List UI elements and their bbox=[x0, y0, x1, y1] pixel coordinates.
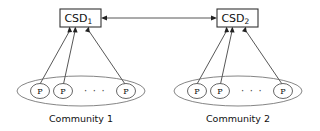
csd-2[interactable]: CSD 2 bbox=[217, 9, 258, 27]
community-1-uplinks bbox=[40, 27, 125, 85]
community-2-group: P P P · · · Community 2 bbox=[174, 27, 302, 125]
peer-label: P bbox=[60, 87, 66, 96]
community-2-peers: P P P · · · bbox=[188, 84, 293, 99]
peer-node[interactable]: P bbox=[117, 84, 136, 99]
link-arrowhead-left-icon bbox=[101, 16, 107, 21]
peer-label: P bbox=[123, 87, 129, 96]
community-1-caption: Community 1 bbox=[49, 113, 113, 124]
peer-node[interactable]: P bbox=[54, 84, 73, 99]
csd-1-subscript: 1 bbox=[88, 17, 93, 26]
peer-label: P bbox=[37, 87, 43, 96]
community-2-uplinks bbox=[197, 27, 282, 85]
peer-node[interactable]: P bbox=[274, 84, 293, 99]
community-2-caption: Community 2 bbox=[206, 113, 270, 124]
figure-canvas: P P P · · · Community 1 bbox=[0, 0, 320, 131]
peer-node[interactable]: P bbox=[31, 84, 50, 99]
peer-node[interactable]: P bbox=[188, 84, 207, 99]
csd-2-subscript: 2 bbox=[245, 17, 250, 26]
peer-node[interactable]: P bbox=[211, 84, 230, 99]
peer-ellipsis: · · · bbox=[84, 85, 106, 96]
peer-label: P bbox=[194, 87, 200, 96]
community-directory-diagram: P P P · · · Community 1 bbox=[0, 0, 320, 131]
csd-1-label: CSD bbox=[64, 12, 87, 25]
inter-directory-link bbox=[101, 16, 217, 21]
community-1-peers: P P P · · · bbox=[31, 84, 136, 99]
community-1-group: P P P · · · Community 1 bbox=[17, 27, 145, 125]
peer-ellipsis: · · · bbox=[241, 85, 263, 96]
peer-label: P bbox=[280, 87, 286, 96]
link-arrowhead-right-icon bbox=[211, 16, 217, 21]
peer-label: P bbox=[217, 87, 223, 96]
csd-1[interactable]: CSD 1 bbox=[60, 9, 101, 27]
csd-2-label: CSD bbox=[221, 12, 244, 25]
